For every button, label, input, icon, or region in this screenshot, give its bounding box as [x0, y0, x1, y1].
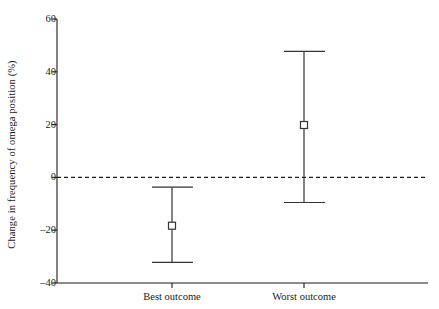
plot-area [0, 0, 439, 309]
x-tick-marks [172, 283, 304, 288]
error-bar-best-outcome [152, 187, 193, 262]
chart-figure: Change in frequency of omega position (%… [0, 0, 439, 309]
y-tick-marks [52, 19, 57, 283]
data-point-marker-worst-outcome [301, 122, 308, 129]
error-bar-worst-outcome [284, 51, 325, 202]
data-point-marker-best-outcome [169, 222, 176, 229]
